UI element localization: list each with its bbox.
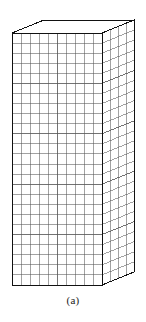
mesh-outline [12,20,134,285]
figure-caption: (a) [0,293,146,307]
mesh-block-diagram [0,0,146,322]
figure-panel: (a) [0,0,146,322]
mesh-grid-lines [12,23,134,285]
